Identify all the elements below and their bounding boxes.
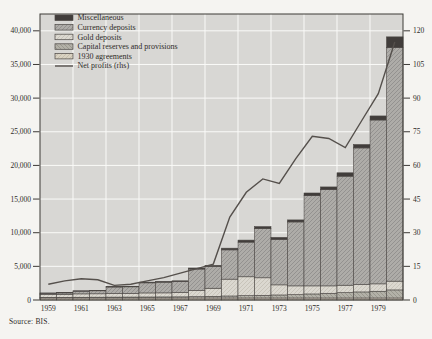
svg-text:40,000: 40,000 bbox=[10, 26, 31, 35]
legend-label: Miscellaneous bbox=[78, 13, 124, 22]
svg-text:30,000: 30,000 bbox=[10, 94, 31, 103]
svg-text:15,000: 15,000 bbox=[10, 195, 31, 204]
svg-text:20,000: 20,000 bbox=[10, 161, 31, 170]
bar-1968 bbox=[189, 268, 206, 300]
legend-label: 1930 agreements bbox=[78, 52, 132, 61]
bar-1969 bbox=[205, 265, 222, 300]
svg-text:1961: 1961 bbox=[74, 304, 89, 313]
bar-1970 bbox=[222, 248, 239, 300]
bar-1976 bbox=[321, 187, 338, 300]
svg-text:1959: 1959 bbox=[41, 304, 56, 313]
legend-swatch-agreements bbox=[55, 53, 73, 59]
svg-text:25,000: 25,000 bbox=[10, 127, 31, 136]
bar-1966 bbox=[156, 281, 173, 300]
bar-1972 bbox=[255, 227, 272, 300]
legend-label: Capital reserves and provisions bbox=[78, 42, 178, 51]
svg-text:1975: 1975 bbox=[305, 304, 320, 313]
bar-1965 bbox=[139, 282, 156, 300]
bar-1975 bbox=[304, 193, 321, 300]
svg-text:90: 90 bbox=[413, 94, 421, 103]
svg-text:1967: 1967 bbox=[173, 304, 188, 313]
svg-text:1969: 1969 bbox=[206, 304, 221, 313]
svg-text:5,000: 5,000 bbox=[14, 262, 31, 271]
legend-swatch-currency bbox=[55, 25, 73, 31]
svg-text:35,000: 35,000 bbox=[10, 60, 31, 69]
svg-text:45: 45 bbox=[413, 195, 421, 204]
svg-text:15: 15 bbox=[413, 262, 421, 271]
bar-1980 bbox=[387, 37, 404, 300]
legend-swatch-capital bbox=[55, 44, 73, 50]
legend-label: Gold deposits bbox=[78, 33, 122, 42]
bar-1978 bbox=[354, 145, 371, 300]
legend-swatch-gold bbox=[55, 34, 73, 40]
chart-canvas: 05,00010,00015,00020,00025,00030,00035,0… bbox=[0, 0, 432, 339]
svg-text:0: 0 bbox=[27, 296, 31, 305]
bar-1979 bbox=[370, 116, 387, 300]
legend-swatch-misc bbox=[55, 15, 73, 21]
svg-text:1979: 1979 bbox=[371, 304, 386, 313]
source-note: Source: BIS. bbox=[9, 317, 50, 326]
bar-1961 bbox=[73, 291, 90, 300]
svg-text:30: 30 bbox=[413, 228, 421, 237]
svg-text:10,000: 10,000 bbox=[10, 228, 31, 237]
bar-1967 bbox=[172, 281, 189, 300]
legend-label: Currency deposits bbox=[78, 23, 136, 32]
svg-text:1971: 1971 bbox=[239, 304, 254, 313]
svg-text:60: 60 bbox=[413, 161, 421, 170]
svg-text:120: 120 bbox=[413, 26, 425, 35]
bar-1974 bbox=[288, 220, 305, 300]
svg-text:1977: 1977 bbox=[338, 304, 353, 313]
bar-1963 bbox=[106, 286, 123, 300]
bar-1962 bbox=[90, 290, 107, 300]
svg-text:0: 0 bbox=[413, 296, 417, 305]
bar-1960 bbox=[57, 293, 74, 300]
bar-1959 bbox=[40, 293, 57, 300]
svg-text:1963: 1963 bbox=[107, 304, 122, 313]
bar-1964 bbox=[123, 286, 140, 300]
svg-text:105: 105 bbox=[413, 60, 425, 69]
bar-1973 bbox=[271, 237, 288, 300]
svg-text:1973: 1973 bbox=[272, 304, 287, 313]
bar-1971 bbox=[238, 240, 255, 300]
figure: 05,00010,00015,00020,00025,00030,00035,0… bbox=[0, 0, 432, 339]
bar-1977 bbox=[337, 173, 354, 300]
svg-text:1965: 1965 bbox=[140, 304, 155, 313]
svg-text:75: 75 bbox=[413, 127, 421, 136]
legend-label: Net profits (rhs) bbox=[78, 61, 130, 70]
